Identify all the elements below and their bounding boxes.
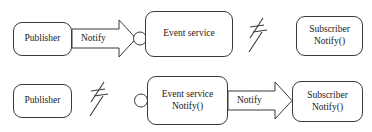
node-label-line: Event service <box>163 28 214 40</box>
node-label-line: Event service <box>162 89 213 101</box>
broken-link-icon-row2 <box>90 82 108 116</box>
node-publisher-row2[interactable]: Publisher <box>13 84 72 118</box>
node-label-line: Notify() <box>312 102 343 114</box>
node-label-line: Publisher <box>25 95 61 107</box>
node-label-line: Subscriber <box>307 90 348 102</box>
socket-circle-row2 <box>135 94 148 107</box>
node-label-line: Publisher <box>25 33 61 45</box>
node-label-line: Notify() <box>314 36 345 48</box>
node-subscriber-row1[interactable]: Subscriber Notify() <box>296 16 363 56</box>
node-publisher-row1[interactable]: Publisher <box>13 22 72 56</box>
arrow-label-notify-row1: Notify <box>81 34 106 44</box>
node-label-line: Notify() <box>172 101 203 113</box>
diagram-canvas: Publisher Event service Subscriber Notif… <box>0 0 372 132</box>
node-event-service-row1[interactable]: Event service <box>145 11 233 57</box>
node-subscriber-row2[interactable]: Subscriber Notify() <box>292 81 363 122</box>
broken-link-icon-row1 <box>249 18 267 52</box>
node-event-service-row2[interactable]: Event service Notify() <box>147 76 228 125</box>
node-label-line: Subscriber <box>309 24 350 36</box>
arrow-label-notify-row2: Notify <box>237 96 262 106</box>
